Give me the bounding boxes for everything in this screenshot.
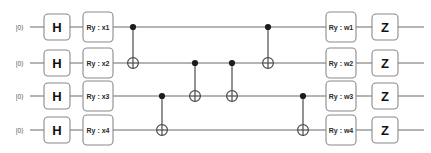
- ry-weight-gate-label-q3: Ry : w4: [329, 127, 354, 135]
- ry-input-gate-q2[interactable]: Ry : x3: [83, 81, 113, 111]
- qubit-init-label-3: |0⟩: [16, 127, 24, 135]
- hadamard-gate-q2[interactable]: H: [44, 83, 70, 109]
- circuit-canvas: HHHHRy : x1Ry : x2Ry : x3Ry : x4Ry : w1R…: [0, 0, 431, 153]
- cnot-gate-1[interactable]: [128, 24, 139, 69]
- cnot-control-dot-1: [130, 24, 136, 30]
- gate-layer: HHHHRy : x1Ry : x2Ry : x3Ry : x4Ry : w1R…: [44, 12, 398, 145]
- cnot-control-dot-5: [265, 24, 271, 30]
- hadamard-gate-q0[interactable]: H: [44, 14, 70, 40]
- cnot-control-dot-3: [192, 60, 198, 66]
- pauli-z-gate-label-q0: Z: [381, 20, 389, 35]
- cnot-layer: [128, 24, 309, 135]
- qubit-init-label-1: |0⟩: [16, 60, 24, 68]
- hadamard-gate-q1[interactable]: H: [44, 50, 70, 76]
- cnot-gate-5[interactable]: [263, 24, 274, 69]
- cnot-control-dot-4: [229, 60, 235, 66]
- pauli-z-gate-q0[interactable]: Z: [372, 14, 398, 40]
- cnot-control-dot-6: [300, 93, 306, 99]
- hadamard-gate-label-q3: H: [52, 123, 61, 138]
- quantum-circuit-diagram: HHHHRy : x1Ry : x2Ry : x3Ry : x4Ry : w1R…: [0, 0, 431, 153]
- qubit-init-label-2: |0⟩: [16, 93, 24, 101]
- ry-weight-gate-q1[interactable]: Ry : w2: [326, 48, 356, 78]
- hadamard-gate-label-q1: H: [52, 56, 61, 71]
- ry-input-gate-q1[interactable]: Ry : x2: [83, 48, 113, 78]
- ry-input-gate-q0[interactable]: Ry : x1: [83, 12, 113, 42]
- pauli-z-gate-q2[interactable]: Z: [372, 83, 398, 109]
- ry-weight-gate-label-q0: Ry : w1: [329, 24, 354, 32]
- ry-weight-gate-label-q1: Ry : w2: [329, 60, 354, 68]
- ry-weight-gate-q2[interactable]: Ry : w3: [326, 81, 356, 111]
- hadamard-gate-label-q0: H: [52, 20, 61, 35]
- ry-weight-gate-label-q2: Ry : w3: [329, 93, 354, 101]
- cnot-control-dot-2: [159, 93, 165, 99]
- ry-input-gate-label-q0: Ry : x1: [87, 24, 110, 32]
- pauli-z-gate-label-q2: Z: [381, 89, 389, 104]
- ry-weight-gate-q0[interactable]: Ry : w1: [326, 12, 356, 42]
- cnot-gate-4[interactable]: [227, 60, 238, 102]
- hadamard-gate-label-q2: H: [52, 89, 61, 104]
- pauli-z-gate-label-q3: Z: [381, 123, 389, 138]
- ry-input-gate-label-q1: Ry : x2: [87, 60, 110, 68]
- ry-input-gate-label-q3: Ry : x4: [87, 127, 110, 135]
- ry-input-gate-label-q2: Ry : x3: [87, 93, 110, 101]
- pauli-z-gate-label-q1: Z: [381, 56, 389, 71]
- cnot-gate-6[interactable]: [298, 93, 309, 135]
- hadamard-gate-q3[interactable]: H: [44, 117, 70, 143]
- qubit-init-label-layer: |0⟩|0⟩|0⟩|0⟩: [16, 24, 24, 135]
- pauli-z-gate-q3[interactable]: Z: [372, 117, 398, 143]
- cnot-gate-2[interactable]: [157, 93, 168, 135]
- pauli-z-gate-q1[interactable]: Z: [372, 50, 398, 76]
- cnot-gate-3[interactable]: [190, 60, 201, 102]
- qubit-init-label-0: |0⟩: [16, 24, 24, 32]
- ry-input-gate-q3[interactable]: Ry : x4: [83, 115, 113, 145]
- ry-weight-gate-q3[interactable]: Ry : w4: [326, 115, 356, 145]
